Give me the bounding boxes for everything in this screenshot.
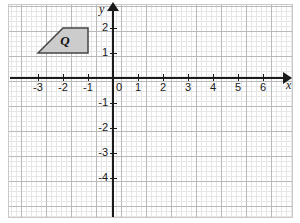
y-tick-label: -4 — [86, 172, 108, 183]
x-tick-label: 2 — [152, 82, 174, 93]
x-tick-label: 1 — [127, 82, 149, 93]
x-tick-mark — [88, 74, 89, 81]
y-tick-label: -2 — [86, 122, 108, 133]
y-tick-mark — [110, 128, 117, 129]
y-axis-arrow-icon — [107, 2, 119, 11]
x-tick-label: -2 — [52, 82, 74, 93]
x-tick-mark — [38, 74, 39, 81]
x-axis-line — [10, 77, 285, 79]
x-tick-mark — [263, 74, 264, 81]
y-tick-mark — [110, 53, 117, 54]
y-tick-label: -3 — [86, 147, 108, 158]
y-axis-label: y — [99, 3, 104, 15]
x-tick-label: 6 — [252, 82, 274, 93]
y-tick-mark — [110, 153, 117, 154]
x-tick-mark — [238, 74, 239, 81]
y-tick-mark — [110, 103, 117, 104]
x-tick-mark — [188, 74, 189, 81]
x-tick-label: 3 — [177, 82, 199, 93]
x-tick-label: 4 — [202, 82, 224, 93]
origin-label: 0 — [116, 82, 122, 93]
y-tick-label: -1 — [86, 97, 108, 108]
x-tick-mark — [63, 74, 64, 81]
x-axis-label: x — [286, 79, 291, 91]
shape-layer — [0, 0, 300, 223]
y-tick-mark — [110, 28, 117, 29]
x-tick-label: -1 — [77, 82, 99, 93]
x-tick-mark — [138, 74, 139, 81]
x-tick-mark — [213, 74, 214, 81]
x-tick-mark — [163, 74, 164, 81]
x-tick-label: -3 — [27, 82, 49, 93]
coordinate-plane-figure: Q x y 0 -3-2-112345621-1-2-3-4 — [0, 0, 300, 223]
y-tick-label: 1 — [86, 47, 108, 58]
y-tick-label: 2 — [86, 22, 108, 33]
y-tick-mark — [110, 178, 117, 179]
x-tick-label: 5 — [227, 82, 249, 93]
y-axis-line — [112, 8, 114, 217]
shape-label-q: Q — [60, 34, 69, 47]
